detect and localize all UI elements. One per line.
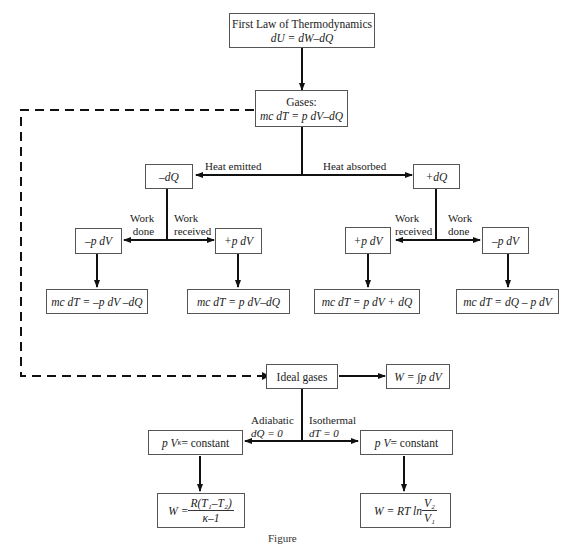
left-work-received-node: +p dV bbox=[215, 228, 262, 254]
left-work-received-label: Workreceived bbox=[174, 212, 211, 238]
left-received-result: mc dT = p dV–dQ bbox=[187, 289, 290, 314]
first-law-node: First Law of Thermodynamics dU = dW–dQ bbox=[229, 13, 375, 48]
left-done-result: mc dT = –p dV –dQ bbox=[46, 289, 148, 314]
work-integral-node: W = ∫p dV bbox=[386, 364, 450, 389]
isothermal-node: p V = constant bbox=[360, 430, 453, 455]
gases-node: Gases: mc dT = p dV–dQ bbox=[255, 90, 348, 127]
adiabatic-node: p Vκ = constant bbox=[148, 430, 243, 455]
gases-equation: mc dT = p dV–dQ bbox=[260, 109, 343, 123]
right-done-result: mc dT = dQ – p dV bbox=[456, 289, 559, 314]
left-work-done-node: –p dV bbox=[75, 228, 122, 254]
right-received-result: mc dT = p dV + dQ bbox=[314, 289, 420, 314]
isothermal-label: IsothermaldT = 0 bbox=[309, 414, 356, 440]
first-law-equation: dU = dW–dQ bbox=[271, 31, 334, 45]
isothermal-work-node: W = RT ln V₂V₁ bbox=[360, 493, 451, 528]
gases-title: Gases: bbox=[286, 95, 317, 109]
heat-absorbed-node: +dQ bbox=[413, 164, 460, 189]
ideal-gases-node: Ideal gases bbox=[266, 364, 338, 389]
first-law-title: First Law of Thermodynamics bbox=[232, 17, 372, 31]
right-work-done-node: –p dV bbox=[482, 227, 529, 254]
left-work-done-label: Workdone bbox=[130, 212, 154, 238]
right-work-received-node: +p dV bbox=[345, 227, 391, 254]
heat-emitted-node: –dQ bbox=[145, 164, 193, 189]
adiabatic-work-node: W = R(T₁–T₂)κ–1 bbox=[157, 493, 245, 528]
adiabatic-label: AdiabaticdQ = 0 bbox=[251, 414, 294, 440]
heat-absorbed-label: Heat absorbed bbox=[323, 160, 386, 173]
right-work-done-label: Workdone bbox=[448, 212, 472, 238]
heat-emitted-label: Heat emitted bbox=[205, 160, 262, 173]
right-work-received-label: Workreceived bbox=[395, 212, 432, 238]
figure-caption: Figure bbox=[268, 532, 297, 544]
